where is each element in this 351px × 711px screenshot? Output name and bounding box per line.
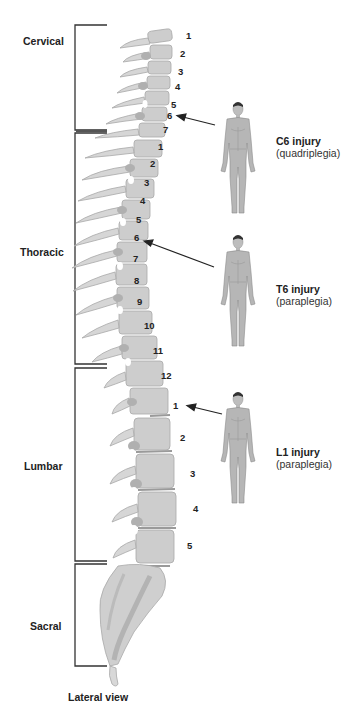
vertebra-t5: 5	[136, 214, 141, 225]
vertebra-t12: 12	[161, 370, 172, 381]
vertebra-c4: 4	[175, 81, 180, 92]
vertebra-l3: 3	[190, 468, 195, 479]
injury-subtitle-t6: (paraplegia)	[276, 295, 332, 307]
figure-l1	[221, 392, 255, 503]
vertebra-l2: 2	[180, 432, 185, 443]
region-label-cervical: Cervical	[23, 35, 64, 47]
diagram-caption: Lateral view	[68, 691, 128, 703]
vertebra-l1: 1	[173, 400, 178, 411]
vertebra-c5: 5	[171, 99, 176, 110]
vertebra-t1: 1	[158, 141, 163, 152]
injury-subtitle-c6: (quadriplegia)	[276, 147, 340, 159]
injury-label-l1: L1 injury (paraplegia)	[276, 446, 332, 470]
injury-title-c6: C6 injury	[276, 135, 340, 147]
vertebra-t3: 3	[144, 177, 149, 188]
vertebra-t10: 10	[144, 320, 155, 331]
vertebra-c6: 6	[167, 110, 172, 121]
region-label-sacral: Sacral	[30, 620, 62, 632]
vertebra-c7: 7	[163, 124, 168, 135]
injury-label-t6: T6 injury (paraplegia)	[276, 283, 332, 307]
injury-title-l1: L1 injury	[276, 446, 332, 458]
vertebral-column	[116, 28, 176, 563]
region-label-thoracic: Thoracic	[20, 246, 64, 258]
vertebra-t2: 2	[150, 158, 155, 169]
region-brackets	[75, 25, 107, 666]
vertebra-t4: 4	[140, 195, 145, 206]
vertebra-t9: 9	[137, 296, 142, 307]
figure-c6	[221, 102, 255, 213]
injury-label-c6: C6 injury (quadriplegia)	[276, 135, 340, 159]
vertebra-c3: 3	[178, 66, 183, 77]
injury-subtitle-l1: (paraplegia)	[276, 458, 332, 470]
vertebra-c1: 1	[186, 30, 191, 41]
injury-title-t6: T6 injury	[276, 283, 332, 295]
figure-t6	[221, 235, 255, 346]
vertebra-l4: 4	[193, 503, 198, 514]
vertebra-t6: 6	[134, 232, 139, 243]
vertebra-l5: 5	[187, 540, 192, 551]
vertebra-t11: 11	[153, 345, 163, 356]
region-label-lumbar: Lumbar	[24, 460, 63, 472]
vertebra-c2: 2	[180, 48, 185, 59]
vertebra-t8: 8	[134, 275, 139, 286]
vertebra-t7: 7	[133, 253, 138, 264]
